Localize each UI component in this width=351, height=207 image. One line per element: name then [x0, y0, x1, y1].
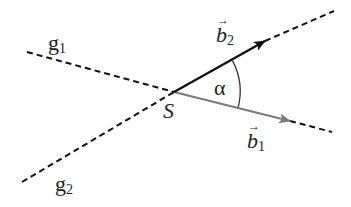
- label-S: S: [163, 98, 174, 123]
- line-g1-extension: [290, 121, 332, 132]
- line-g2-extension: [265, 11, 334, 41]
- label-b2: → b2: [216, 13, 234, 48]
- vector-b1: [174, 92, 290, 121]
- line-g2: [22, 92, 174, 182]
- label-alpha: α: [214, 75, 226, 100]
- svg-text:b2: b2: [216, 22, 234, 48]
- line-g1: [27, 52, 174, 92]
- svg-text:b1: b1: [247, 128, 265, 154]
- angle-arc: [233, 61, 241, 108]
- label-g2: g2: [55, 171, 73, 197]
- label-b1: → b1: [247, 119, 265, 154]
- label-g1: g1: [48, 30, 66, 56]
- vector-angle-diagram: g1 g2 S α → b2 → b1: [0, 0, 351, 207]
